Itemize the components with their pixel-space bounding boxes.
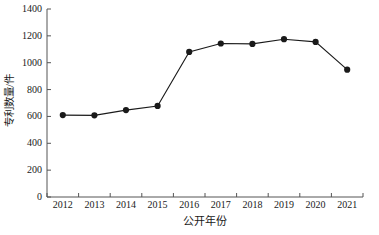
series-line	[63, 39, 347, 115]
data-point-marker	[155, 103, 161, 109]
x-axis-title: 公开年份	[47, 212, 363, 228]
axis-lines	[47, 9, 363, 197]
series-markers	[60, 36, 351, 118]
data-point-marker	[218, 40, 224, 46]
plot-area	[0, 0, 379, 235]
data-point-marker	[249, 41, 255, 47]
data-point-marker	[344, 67, 350, 73]
x-axis-title-text: 公开年份	[183, 215, 227, 227]
tick-marks	[47, 9, 363, 197]
data-point-marker	[123, 107, 129, 113]
data-point-marker	[60, 112, 66, 118]
data-point-marker	[313, 39, 319, 45]
data-point-marker	[186, 49, 192, 55]
data-point-marker	[91, 112, 97, 118]
data-point-marker	[281, 36, 287, 42]
line-chart: 专利数量/件 0200400600800100012001400 2012201…	[0, 0, 379, 235]
